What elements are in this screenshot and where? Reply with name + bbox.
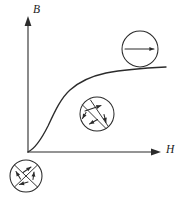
- figure-canvas: B H: [0, 0, 178, 199]
- magnetization-curve-figure: B H: [0, 0, 178, 199]
- y-axis: [25, 16, 32, 152]
- y-axis-label: B: [33, 3, 40, 15]
- domain-inset-unmagnetized: [10, 160, 42, 192]
- domain-insets-layer: [10, 31, 158, 192]
- domain-inset-partially-aligned: [80, 97, 114, 131]
- x-axis-label: H: [165, 143, 175, 155]
- y-axis-arrowhead: [25, 16, 32, 26]
- x-axis: [28, 149, 161, 156]
- domain-inset-saturated: [122, 31, 158, 67]
- x-axis-arrowhead: [151, 149, 161, 156]
